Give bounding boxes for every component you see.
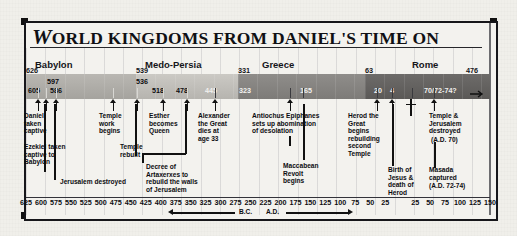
stem-168 [290, 88, 291, 98]
year-marker-70-72-74: 70/72-74? [424, 86, 457, 95]
pointer-arrow-temple-work [110, 99, 117, 111]
axis-tick-375: 375 [170, 198, 182, 207]
axis-tick-575: 575 [50, 198, 62, 207]
axis-tick-125: 125 [469, 198, 481, 207]
annotation-temple-work-begins: Temple work begins [99, 112, 122, 135]
stem-20 [377, 88, 378, 98]
axis-tick-150: 150 [304, 198, 316, 207]
axis-tick-625: 625 [20, 198, 32, 207]
ad-arrowhead [348, 209, 353, 215]
axis-tick-175: 175 [289, 198, 301, 207]
leader-jerusalem [54, 104, 56, 180]
annotation-maccabean-revolt: Maccabean Revolt begins [283, 162, 319, 185]
axis-tick-150: 150 [484, 198, 496, 207]
annotation-temple-destroyed-date: (A.D. 70) [431, 136, 458, 144]
ad-label: A.D. [266, 208, 279, 215]
leader-decree-vert [185, 104, 187, 154]
leader-masada [434, 142, 436, 168]
annotation-temple-jerusalem-destroyed: Temple & Jerusalem destroyed [429, 112, 462, 135]
bc-label: B.C. [239, 208, 252, 215]
annotation-birth-jesus-text: Birth of Jesus & death of Herod [388, 166, 414, 196]
axis-tick-labels: 6256005755505255004754504254003753503253… [26, 198, 490, 209]
axis-tick-475: 475 [110, 198, 122, 207]
pointer-arrow-esther [160, 99, 167, 111]
era-label-babylon: Babylon [35, 59, 72, 70]
stem-478 [163, 88, 164, 98]
annotation-jerusalem-destroyed: Jerusalem destroyed [60, 178, 126, 186]
axis-tick-325: 325 [200, 198, 212, 207]
pointer-arrow-alexander [212, 99, 219, 111]
axis-tick-225: 225 [259, 198, 271, 207]
axis-tick-500: 500 [95, 198, 107, 207]
axis-tick-525: 525 [80, 198, 92, 207]
page-title: WORLD KINGDOMS FROM DANIEL'S TIME ON [32, 24, 482, 46]
axis-tick-550: 550 [65, 198, 77, 207]
timeline-chart: WORLD KINGDOMS FROM DANIEL'S TIME ON Bab… [0, 0, 517, 236]
stem-33ad [412, 88, 413, 98]
year-marker-597: 597 [47, 77, 59, 86]
bc-arrowhead [168, 209, 173, 215]
axis-tick-275: 275 [230, 198, 242, 207]
stem-445 [187, 88, 188, 98]
pointer-arrow-daniel [35, 99, 42, 111]
title-underline [30, 47, 482, 49]
year-marker-536: 536 [136, 77, 148, 86]
axis-tick-75: 75 [441, 198, 449, 207]
annotation-masada-captured: Masada captured [429, 166, 457, 181]
stem-605 [38, 88, 39, 98]
cross-icon [406, 99, 416, 116]
year-marker-165: 165 [300, 86, 312, 95]
leader-birth-jesus [392, 104, 394, 166]
annotation-antiochus: Antiochus Epiphanes sets up abomination … [252, 112, 319, 135]
annotation-ezekiel-captive: Ezekiel taken captive to Babylon [24, 143, 65, 166]
axis-tick-600: 600 [35, 198, 47, 207]
pointer-arrow-temple-destroyed [431, 99, 438, 111]
stem-323 [215, 88, 216, 98]
axis-tick-300: 300 [215, 198, 227, 207]
stem-4 [392, 88, 393, 98]
era-label-rome: Rome [412, 59, 438, 70]
annotation-daniel-captive: Daniel taken captive [24, 112, 47, 135]
annotation-temple-rebuilt: Temple rebuilt [120, 143, 143, 158]
axis-tick-400: 400 [155, 198, 167, 207]
band-babylon [26, 74, 136, 99]
axis-tick-25: 25 [381, 198, 389, 207]
axis-tick-450: 450 [125, 198, 137, 207]
stem-586 [56, 88, 57, 98]
axis-tick-25: 25 [411, 198, 419, 207]
timeline-continues-arrow [470, 84, 485, 92]
axis-tick-100: 100 [334, 198, 346, 207]
annotation-esther-queen: Esther becomes Queen [149, 112, 178, 135]
stem-516 [137, 88, 138, 98]
era-label-medo-persia: Medo-Persia [145, 59, 202, 70]
stem-70ad [434, 88, 435, 98]
stem-165 [303, 88, 304, 98]
year-marker-323: 323 [239, 86, 251, 95]
stem-597 [46, 88, 47, 98]
annotation-masada-date: (A.D. 72-74) [429, 182, 465, 190]
pointer-arrow-herod [374, 99, 381, 111]
title-drop-cap: W [32, 24, 52, 49]
leader-decree-horiz [142, 153, 186, 155]
stem-536 [113, 88, 114, 98]
leader-antiochus-drop [289, 136, 291, 146]
pointer-arrow-antiochus [287, 99, 294, 111]
axis-tick-50: 50 [426, 198, 434, 207]
axis-tick-125: 125 [319, 198, 331, 207]
axis-tick-250: 250 [245, 198, 257, 207]
axis-tick-50: 50 [366, 198, 374, 207]
axis-tick-200: 200 [274, 198, 286, 207]
axis-tick-350: 350 [185, 198, 197, 207]
axis-tick-425: 425 [140, 198, 152, 207]
annotation-herod-temple: Herod the Great begins rebuilding second… [348, 112, 380, 158]
annotation-alexander-dies: Alexander the Great dies at age 33 [198, 112, 230, 142]
era-bands [26, 74, 490, 99]
ad-direction-line [286, 212, 348, 214]
title-text: ORLD KINGDOMS FROM DANIEL'S TIME ON [52, 28, 439, 48]
axis-tick-100: 100 [454, 198, 466, 207]
era-label-greece: Greece [262, 59, 294, 70]
axis-tick-75: 75 [351, 198, 359, 207]
annotation-decree-artaxerxes: Decree of Artaxerxes to rebuild the wall… [146, 163, 198, 193]
bc-direction-line [173, 212, 235, 214]
